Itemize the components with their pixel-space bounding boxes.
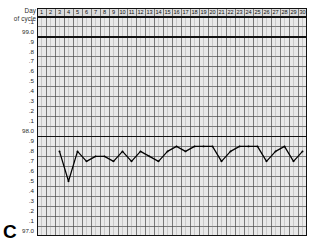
y-tick-label: .4	[0, 188, 34, 194]
y-tick-label: .9	[0, 138, 34, 144]
y-tick-label: .3	[0, 98, 34, 104]
day-header-cell: 2	[46, 8, 55, 17]
day-header-cell: 26	[262, 8, 271, 17]
y-tick-label: .9	[0, 39, 34, 45]
day-header-cell: 24	[244, 8, 253, 17]
day-header-cell: 30	[298, 8, 307, 17]
day-header-cell: 20	[208, 8, 217, 17]
y-tick-label: .6	[0, 168, 34, 174]
y-axis-tick-labels: .199.0.9.8.7.6.5.4.3.2.198.0.9.8.7.6.5.4…	[0, 0, 36, 243]
day-header-cell: 3	[55, 8, 64, 17]
day-header-cell: 22	[226, 8, 235, 17]
day-header-cell: 7	[91, 8, 100, 17]
y-tick-label: 98.0	[0, 128, 34, 134]
chart-plot-area	[37, 8, 307, 236]
day-header-cell: 27	[271, 8, 280, 17]
day-header-cell: 5	[73, 8, 82, 17]
day-header-cell: 1	[37, 8, 46, 17]
day-header-cell: 15	[163, 8, 172, 17]
day-header-cell: 28	[280, 8, 289, 17]
panel-letter: C	[3, 222, 17, 241]
day-header-cell: 19	[199, 8, 208, 17]
y-tick-label: .6	[0, 68, 34, 74]
y-tick-label: .8	[0, 49, 34, 55]
y-tick-label: .8	[0, 148, 34, 154]
y-tick-label: .2	[0, 108, 34, 114]
day-header-cell: 6	[82, 8, 91, 17]
y-tick-label: .2	[0, 208, 34, 214]
y-tick-label: 99.0	[0, 29, 34, 35]
y-tick-label: .4	[0, 88, 34, 94]
y-tick-label: .7	[0, 58, 34, 64]
day-header-cell: 29	[289, 8, 298, 17]
day-header-cell: 11	[127, 8, 136, 17]
bbt-chart-panel: Day of cycle .199.0.9.8.7.6.5.4.3.2.198.…	[0, 0, 310, 243]
day-header-cell: 8	[100, 8, 109, 17]
day-header-cell: 21	[217, 8, 226, 17]
day-header-cell: 13	[145, 8, 154, 17]
y-tick-label: .5	[0, 178, 34, 184]
day-header-cell: 12	[136, 8, 145, 17]
day-header-row: 1234567891011121314151617181920212223242…	[37, 8, 307, 17]
day-header-cell: 17	[181, 8, 190, 17]
y-tick-label: .1	[0, 19, 34, 25]
day-header-cell: 14	[154, 8, 163, 17]
y-tick-label: .5	[0, 78, 34, 84]
day-header-cell: 16	[172, 8, 181, 17]
y-tick-label: .1	[0, 118, 34, 124]
chart-grid-svg	[37, 8, 307, 236]
day-header-cell: 9	[109, 8, 118, 17]
day-header-cell: 25	[253, 8, 262, 17]
day-header-cell: 10	[118, 8, 127, 17]
day-header-cell: 18	[190, 8, 199, 17]
day-header-cell: 23	[235, 8, 244, 17]
day-header-cell: 4	[64, 8, 73, 17]
y-tick-label: .7	[0, 158, 34, 164]
y-tick-label: .3	[0, 198, 34, 204]
